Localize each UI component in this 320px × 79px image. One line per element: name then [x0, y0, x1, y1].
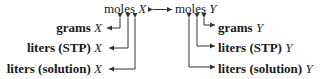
grams-x-arrow-icon	[107, 18, 120, 28]
liters-stp-x-arrow-icon	[109, 18, 128, 48]
liters-stp-y-arrow-icon	[197, 18, 215, 46]
connector-arrows	[0, 0, 320, 79]
grams-y-arrow-icon	[204, 18, 215, 25]
liters-solution-x-arrow-icon	[109, 18, 135, 69]
